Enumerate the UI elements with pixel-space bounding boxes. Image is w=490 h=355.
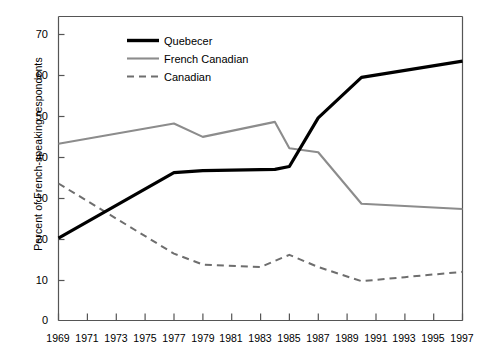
series-line-french-canadian [59,122,463,209]
y-axis-ticks [59,35,65,281]
x-axis-ticks [59,314,463,321]
series-line-canadian [59,184,463,282]
series-line-quebecer [59,61,463,238]
line-chart: Percent of French-speaking respondents 7… [0,0,490,355]
series-group [59,61,463,281]
chart-canvas [0,0,490,355]
legend-swatches [127,41,159,77]
